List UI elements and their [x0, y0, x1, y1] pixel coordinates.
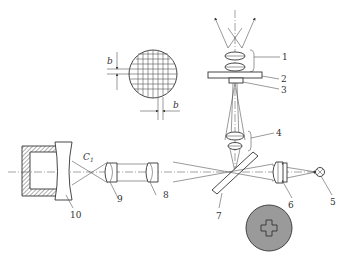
- grid-reticle-inset: b b: [107, 50, 180, 120]
- label-4: 4: [276, 128, 282, 138]
- component-1-eyepiece: [225, 50, 280, 72]
- label-6: 6: [288, 200, 294, 210]
- label-8: 8: [163, 190, 169, 200]
- component-10-mirror-housing: [22, 142, 73, 208]
- label-c1: C1: [83, 152, 94, 163]
- barrel-tube: [117, 164, 148, 181]
- label-9: 9: [117, 194, 123, 204]
- component-2-reticle-plate: [208, 72, 262, 78]
- component-6-condenser: [273, 162, 292, 198]
- component-8-lens: [146, 163, 158, 195]
- label-b-vertical: b: [107, 56, 113, 66]
- label-1: 1: [282, 52, 288, 62]
- label-3: 3: [281, 85, 287, 95]
- component-3-reticle-mark: [229, 78, 243, 83]
- label-2: 2: [281, 74, 287, 84]
- label-7: 7: [216, 211, 222, 221]
- label-10: 10: [70, 210, 82, 220]
- component-9-lens: [105, 163, 118, 198]
- reticle-view-disc: [246, 205, 292, 251]
- concave-mirror: [55, 142, 72, 200]
- rays-c1-crossover: [72, 161, 108, 185]
- component-4-relay-lens: [226, 131, 274, 151]
- component-5-light-source: [316, 168, 333, 196]
- label-5: 5: [330, 197, 336, 207]
- label-b-horizontal: b: [173, 100, 179, 110]
- optical-diagram: b b 1 2 3: [0, 0, 342, 258]
